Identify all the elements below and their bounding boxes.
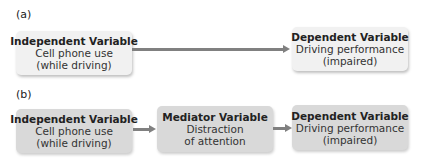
box-title: Mediator Variable — [162, 111, 268, 123]
box-line: Cell phone use — [35, 125, 113, 137]
arrow-right-icon — [133, 128, 150, 131]
box-title: Independent Variable — [10, 35, 138, 47]
box-line: (impaired) — [323, 55, 378, 67]
box-line: (impaired) — [323, 134, 378, 146]
panel-a-label: (a) — [16, 8, 31, 21]
panel-b-label: (b) — [16, 88, 32, 101]
box-line: (while driving) — [36, 59, 111, 71]
independent-variable-box: Independent Variable Cell phone use (whi… — [16, 109, 132, 153]
independent-variable-box: Independent Variable Cell phone use (whi… — [16, 31, 132, 75]
arrow-right-icon — [273, 127, 286, 130]
box-line: Distraction — [186, 123, 243, 135]
box-line: (while driving) — [36, 137, 111, 149]
dependent-variable-box: Dependent Variable Driving performance (… — [292, 27, 408, 71]
mediator-variable-box: Mediator Variable Distraction of attenti… — [157, 106, 273, 152]
box-title: Dependent Variable — [291, 110, 408, 122]
box-line: Driving performance — [296, 43, 404, 55]
box-title: Dependent Variable — [291, 31, 408, 43]
box-line: of attention — [184, 135, 245, 147]
box-title: Independent Variable — [10, 113, 138, 125]
arrow-right-icon — [132, 48, 284, 51]
box-line: Driving performance — [296, 122, 404, 134]
box-line: Cell phone use — [35, 47, 113, 59]
dependent-variable-box: Dependent Variable Driving performance (… — [292, 105, 408, 150]
